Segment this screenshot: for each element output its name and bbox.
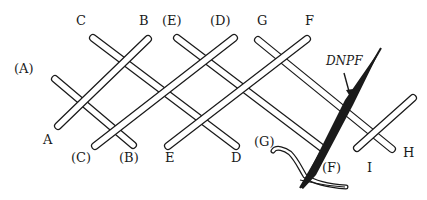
label-a-bottom: A <box>43 133 52 146</box>
label-c-paren-bottom: (C) <box>71 151 91 164</box>
label-dnpf: DNPF <box>326 55 363 67</box>
label-d-bottom: D <box>231 151 241 164</box>
label-g-top: G <box>257 14 267 27</box>
label-d-paren-top: (D) <box>210 14 231 27</box>
label-c-top: C <box>76 14 86 27</box>
label-a-paren: (A) <box>14 62 34 75</box>
label-f-top: F <box>305 14 314 27</box>
label-h-bottom: H <box>403 146 414 159</box>
diagram <box>0 0 427 200</box>
label-b-top: B <box>139 14 149 27</box>
stitch-diagram: .strand-out { stroke: #1a1a1a; stroke-wi… <box>0 0 427 200</box>
label-b-paren-bottom: (B) <box>119 151 139 164</box>
label-f-paren: (F) <box>322 161 341 174</box>
dnpf-arrow-icon <box>344 73 353 98</box>
label-e-paren-top: (E) <box>162 14 182 27</box>
label-e-bottom: E <box>165 151 175 164</box>
label-i-bottom: I <box>367 161 372 174</box>
label-g-paren: (G) <box>254 135 275 148</box>
